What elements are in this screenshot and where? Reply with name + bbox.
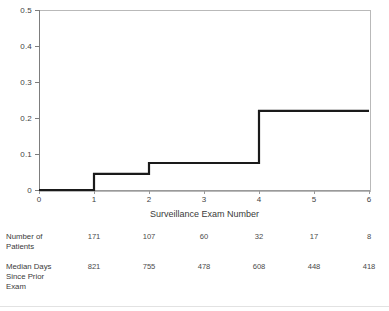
x-tick-label-3: 3 xyxy=(195,196,213,204)
y-tick-label-0.5: 0.5 xyxy=(0,7,32,15)
table-cell: 608 xyxy=(244,262,274,272)
table-cell: 60 xyxy=(189,232,219,242)
table-cell: 755 xyxy=(134,262,164,272)
row-label-line-3: Exam xyxy=(6,282,72,292)
row-label-line-1: Median Days xyxy=(6,262,72,272)
y-tick-label-0.1: 0.1 xyxy=(0,151,32,159)
row-label-line-2: Patients xyxy=(6,242,72,252)
x-tick-label-2: 2 xyxy=(140,196,158,204)
row-label-line-2: Since Prior xyxy=(6,272,72,282)
y-tick-label-0: 0 xyxy=(0,187,32,195)
table-cell: 448 xyxy=(299,262,329,272)
step-chart-svg xyxy=(0,0,389,228)
y-tick-marks xyxy=(35,11,39,191)
plot-area: 0 0.1 0.2 0.3 0.4 0.5 0 1 2 3 4 5 6 Surv… xyxy=(0,0,389,228)
row-label-line-1: Number of xyxy=(6,232,72,242)
table-cell: 821 xyxy=(79,262,109,272)
table-cell: 478 xyxy=(189,262,219,272)
step-line-series xyxy=(39,111,369,190)
y-tick-label-0.2: 0.2 xyxy=(0,115,32,123)
table-cell: 171 xyxy=(79,232,109,242)
table-cell: 418 xyxy=(354,262,384,272)
risk-table: Number of Patients Median Days Since Pri… xyxy=(0,230,389,308)
table-cell: 107 xyxy=(134,232,164,242)
bottom-divider xyxy=(0,306,389,307)
x-tick-label-4: 4 xyxy=(250,196,268,204)
x-tick-label-6: 6 xyxy=(360,196,378,204)
x-axis-title: Surveillance Exam Number xyxy=(39,209,370,219)
table-cell: 8 xyxy=(354,232,384,242)
x-tick-label-1: 1 xyxy=(85,196,103,204)
y-tick-label-0.3: 0.3 xyxy=(0,79,32,87)
table-cell: 32 xyxy=(244,232,274,242)
x-tick-label-0: 0 xyxy=(30,196,48,204)
x-tick-label-5: 5 xyxy=(305,196,323,204)
chart-screenshot: 0 0.1 0.2 0.3 0.4 0.5 0 1 2 3 4 5 6 Surv… xyxy=(0,0,389,311)
row-label-median-days: Median Days Since Prior Exam xyxy=(6,262,72,292)
y-tick-label-0.4: 0.4 xyxy=(0,43,32,51)
table-cell: 17 xyxy=(299,232,329,242)
row-label-number-of-patients: Number of Patients xyxy=(6,232,72,252)
